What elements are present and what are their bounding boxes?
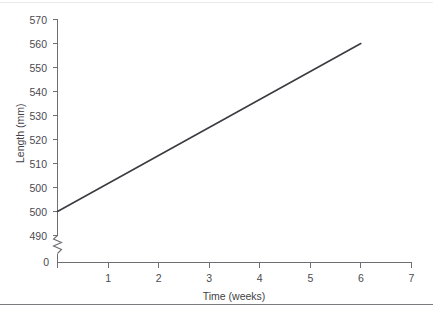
x-tick-label-7: 7: [401, 273, 421, 284]
y-axis-break-zigzag: [54, 236, 62, 254]
y-tick-label-570: 570: [17, 14, 47, 25]
y-tick-marks: [53, 20, 58, 236]
x-tick-label-3: 3: [199, 273, 219, 284]
x-tick-label-4: 4: [250, 273, 270, 284]
y-axis-title: Length (mm): [15, 103, 26, 163]
y-axis-origin-label: 0: [29, 257, 49, 268]
plot-area: [0, 0, 433, 313]
data-series-line: [58, 44, 361, 212]
x-tick-label-1: 1: [98, 273, 118, 284]
y-tick-label-540: 540: [17, 86, 47, 97]
y-tick-label-490: 490: [17, 230, 47, 241]
x-tick-marks: [58, 263, 412, 268]
x-tick-label-6: 6: [351, 273, 371, 284]
x-tick-label-2: 2: [149, 273, 169, 284]
y-tick-label-500: 500: [17, 182, 47, 193]
chart-figure: 570 560 550 540 530 520 510 500 500 490 …: [0, 0, 433, 313]
y-tick-label-560: 560: [17, 38, 47, 49]
y-tick-label-500b: 500: [17, 206, 47, 217]
x-tick-label-5: 5: [300, 273, 320, 284]
x-axis-title: Time (weeks): [203, 291, 266, 302]
y-tick-label-550: 550: [17, 62, 47, 73]
